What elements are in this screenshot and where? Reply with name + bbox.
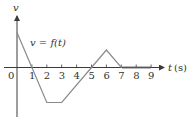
x-tick-label: 3 xyxy=(59,70,65,81)
x-tick-label: 7 xyxy=(118,70,124,81)
x-tick-label: 5 xyxy=(89,70,95,81)
x-tick-label: 6 xyxy=(103,70,109,81)
x-tick-label: 8 xyxy=(133,70,139,81)
y-axis-label: v xyxy=(13,2,19,13)
x-tick-label: 1 xyxy=(29,70,35,81)
x-tick-label: 9 xyxy=(148,70,154,81)
curve-label: v = f(t) xyxy=(30,37,66,48)
velocity-time-graph: v t (s) 0123456789 v = f(t) xyxy=(0,0,189,122)
x-axis-title: t (s) xyxy=(168,62,187,73)
x-tick-label: 2 xyxy=(44,70,50,81)
x-axis-var: t xyxy=(168,62,173,73)
x-tick-label: 0 xyxy=(8,70,14,81)
x-axis-unit: (s) xyxy=(174,62,187,73)
x-tick-label: 4 xyxy=(74,70,80,81)
